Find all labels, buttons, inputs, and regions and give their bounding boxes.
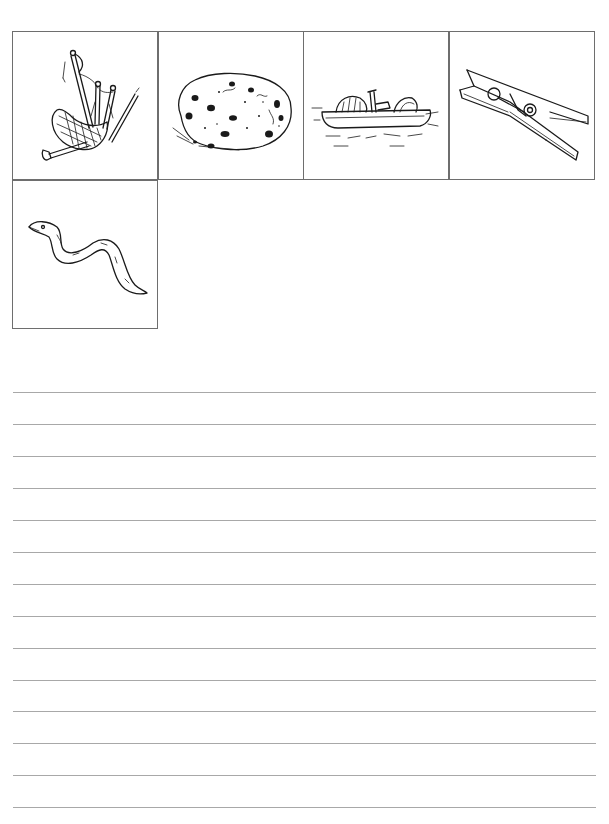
writing-line[interactable] [13,616,596,617]
writing-line[interactable] [13,775,596,776]
writing-line[interactable] [13,424,596,425]
writing-line[interactable] [13,520,596,521]
cookie-icon [159,32,305,181]
writing-line[interactable] [13,807,596,808]
writing-line[interactable] [13,488,596,489]
writing-line[interactable] [13,584,596,585]
writing-line[interactable] [13,392,596,393]
writing-line[interactable] [13,456,596,457]
eel-icon [13,181,159,330]
writing-line[interactable] [13,648,596,649]
picture-card-clothespin [449,31,595,180]
bagpipes-icon [13,32,159,181]
picture-card-bagpipes [12,31,158,180]
writing-line[interactable] [13,711,596,712]
writing-line[interactable] [13,743,596,744]
picture-card-eel [12,180,158,329]
picture-card-cookie [158,31,304,180]
clothespin-icon [450,32,596,181]
writing-line[interactable] [13,680,596,681]
picture-card-pedal-boat [303,31,449,180]
writing-line[interactable] [13,552,596,553]
pedal-boat-icon [304,32,450,181]
